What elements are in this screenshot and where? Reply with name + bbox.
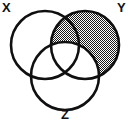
venn-diagram-svg	[0, 0, 130, 124]
set-label-z: Z	[0, 108, 130, 121]
venn-diagram-figure: X Y Z	[0, 0, 130, 124]
set-label-x: X	[2, 1, 11, 14]
set-label-y: Y	[117, 1, 126, 14]
